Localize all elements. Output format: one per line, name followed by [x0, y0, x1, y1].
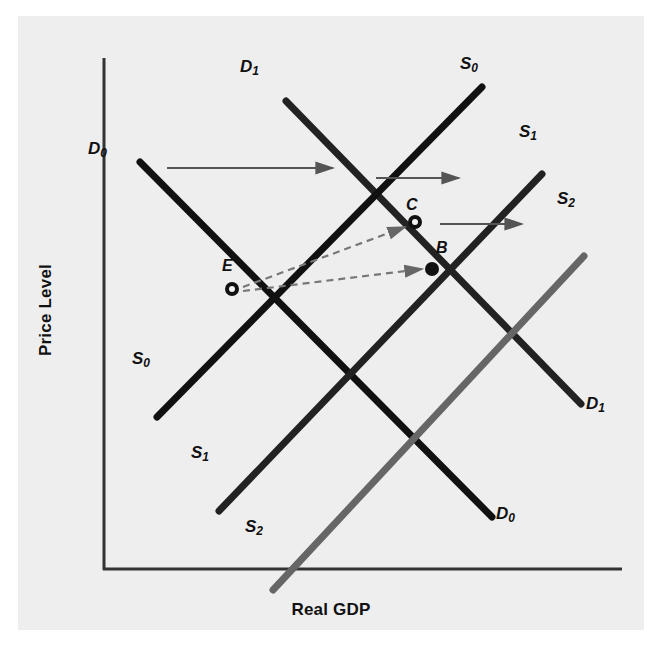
- y-axis-label: Price Level: [36, 240, 56, 380]
- curve-label-s0-lower-base: S: [132, 349, 143, 368]
- curve-label-d0-upper-base: D: [88, 139, 100, 158]
- chart-plot-area: [0, 0, 662, 662]
- curve-label-s2-lower: S2: [245, 518, 263, 535]
- point-label-b: B: [436, 240, 448, 256]
- curve-label-d1-lower-base: D: [586, 394, 598, 413]
- curve-label-s1-lower-sub: 1: [202, 450, 209, 464]
- curve-label-d1-lower: D1: [586, 395, 605, 412]
- curve-label-d0-lower-base: D: [496, 504, 508, 523]
- curve-label-d0-lower-sub: 0: [508, 511, 515, 525]
- figure-root: Price Level Real GDP D0 D0 D1 D1 S0 S0 S…: [0, 0, 662, 662]
- point-marker-c: [408, 215, 422, 229]
- curve-label-s0-lower-sub: 0: [143, 356, 150, 370]
- curve-label-s2-lower-sub: 2: [256, 524, 263, 538]
- e-to-b-arrow: [243, 269, 422, 291]
- point-label-c: C: [406, 197, 418, 213]
- curve-label-s1-upper-sub: 1: [530, 129, 537, 143]
- curve-label-s1-upper-base: S: [519, 122, 530, 141]
- curve-label-s2-lower-base: S: [245, 517, 256, 536]
- curve-label-d0-upper-sub: 0: [100, 146, 107, 160]
- curve-label-s1-upper: S1: [519, 123, 537, 140]
- curve-label-d1-upper-sub: 1: [252, 64, 259, 78]
- e-to-c-arrow: [243, 227, 405, 287]
- curve-s2: [273, 256, 584, 590]
- curve-label-d1-lower-sub: 1: [598, 401, 605, 415]
- curve-label-s0-upper: S0: [460, 55, 478, 72]
- curve-label-s2-upper-base: S: [557, 189, 568, 208]
- curve-label-s0-upper-sub: 0: [471, 61, 478, 75]
- curve-label-s1-lower: S1: [191, 444, 209, 461]
- curve-label-d0-lower: D0: [496, 505, 515, 522]
- curve-label-s2-upper: S2: [557, 190, 575, 207]
- x-axis-label: Real GDP: [0, 600, 662, 620]
- curve-label-s2-upper-sub: 2: [568, 196, 575, 210]
- curve-label-s0-lower: S0: [132, 350, 150, 367]
- curve-label-s0-upper-base: S: [460, 54, 471, 73]
- point-label-e: E: [222, 258, 233, 274]
- point-marker-e: [225, 282, 239, 296]
- curve-label-s1-lower-base: S: [191, 443, 202, 462]
- curve-label-d1-upper-base: D: [240, 57, 252, 76]
- curve-d0: [140, 162, 492, 517]
- point-marker-b: [425, 262, 439, 276]
- curve-label-d1-upper: D1: [240, 58, 259, 75]
- curve-label-d0-upper: D0: [88, 140, 107, 157]
